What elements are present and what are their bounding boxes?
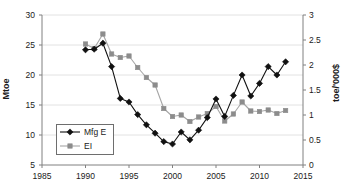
legend-square-marker-icon bbox=[60, 141, 80, 151]
legend-label: EI bbox=[84, 141, 92, 151]
legend-label: Mfg E bbox=[84, 127, 106, 137]
plot-area bbox=[0, 0, 346, 193]
legend: Mfg EEI bbox=[56, 124, 114, 155]
chart-figure: Mtoe toe/'000$ 5101520253000.511.522.531… bbox=[0, 0, 346, 193]
legend-diamond-marker-icon bbox=[60, 127, 80, 137]
legend-item: EI bbox=[57, 139, 113, 153]
series-ei bbox=[83, 32, 287, 124]
legend-item: Mfg E bbox=[57, 125, 113, 139]
